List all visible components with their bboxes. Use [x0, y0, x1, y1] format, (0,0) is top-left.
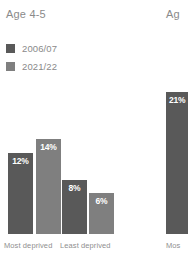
plot-area-secondary: 21% Mos [166, 0, 188, 254]
chart-panel-secondary: Ag 21% Mos [166, 0, 188, 254]
bar-value-label: 14% [36, 142, 61, 152]
category-label-least-deprived: Least deprived [60, 241, 111, 250]
plot-area: 12% 14% 8% 6% Most deprived Least depriv… [0, 0, 145, 254]
bar-most-deprived-2006-07[interactable]: 12% [8, 153, 33, 234]
bar-value-label: 6% [89, 196, 114, 206]
bar-most-deprived-2021-22[interactable]: 14% [36, 139, 61, 234]
category-label-most-deprived: Most deprived [4, 241, 52, 250]
category-label-secondary-most-deprived: Mos [166, 241, 180, 250]
bar-least-deprived-2006-07[interactable]: 8% [62, 180, 87, 234]
bar-secondary-most-deprived-2006-07[interactable]: 21% [166, 92, 188, 234]
chart-panel-age-4-5: Age 4-5 2006/07 2021/22 12% 14% 8% 6% Mo… [0, 0, 145, 254]
bar-value-label: 12% [8, 156, 33, 166]
bar-value-label: 21% [166, 95, 188, 105]
bar-least-deprived-2021-22[interactable]: 6% [89, 193, 114, 234]
bar-value-label: 8% [62, 183, 87, 193]
